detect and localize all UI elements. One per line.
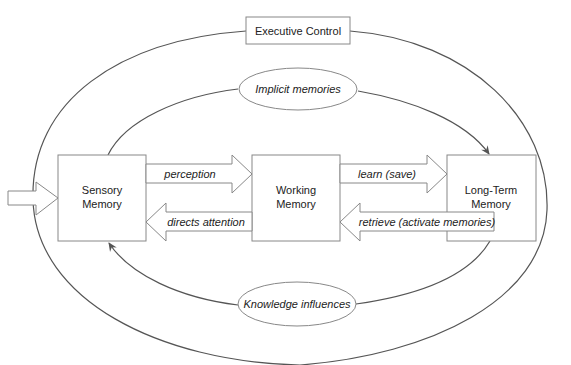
perception-label: perception xyxy=(163,168,215,180)
sensory-memory-label-line2: Memory xyxy=(82,198,122,210)
retrieve-label: retrieve (activate memories) xyxy=(359,216,496,228)
implicit-memories-label: Implicit memories xyxy=(255,83,341,95)
knowledge-curve-left xyxy=(109,243,238,305)
working-memory-label-line1: Working xyxy=(276,184,316,196)
implicit-curve-left xyxy=(108,89,238,155)
implicit-curve-right xyxy=(358,91,489,154)
memory-diagram: Sensory Memory Working Memory Long-Term … xyxy=(0,0,571,365)
knowledge-curve-right xyxy=(356,241,490,304)
directs-attention-label: directs attention xyxy=(167,216,245,228)
executive-control-label: Executive Control xyxy=(255,25,341,37)
knowledge-influences-label: Knowledge influences xyxy=(243,298,351,310)
working-memory-label-line2: Memory xyxy=(276,198,316,210)
learn-save-label: learn (save) xyxy=(358,168,416,180)
sensory-memory-label-line1: Sensory xyxy=(82,184,123,196)
long-term-memory-label-line1: Long-Term xyxy=(465,184,518,196)
long-term-memory-label-line2: Memory xyxy=(471,198,511,210)
